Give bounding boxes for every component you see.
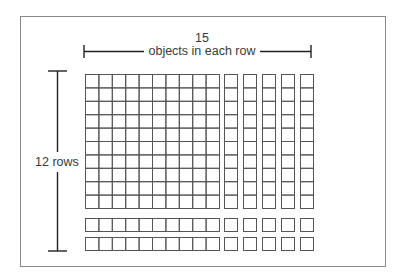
rows-label: 12 rows [35,152,79,172]
row-count-label: 15 [0,31,404,45]
objects-per-row-label: objects in each row [0,44,404,58]
unit-squares [86,75,314,251]
